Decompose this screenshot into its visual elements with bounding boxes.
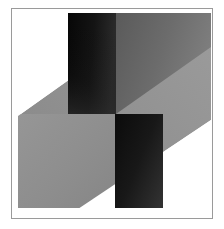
upper-dark-bar-shading	[68, 13, 116, 114]
lower-left-light-panel	[18, 114, 115, 208]
bottom-white-strip	[12, 208, 211, 217]
artboard	[0, 0, 224, 229]
lower-dark-bar	[115, 114, 163, 208]
geometric-composition-artwork	[0, 0, 224, 229]
